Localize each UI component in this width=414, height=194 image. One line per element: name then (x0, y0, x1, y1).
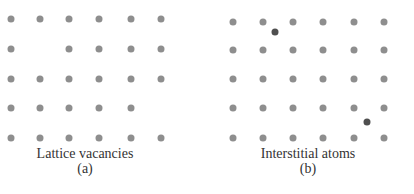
lattice-atom (66, 105, 73, 112)
lattice-atom (96, 76, 103, 83)
lattice-atom (320, 19, 327, 26)
lattice-atom (128, 46, 135, 53)
lattice-atom (290, 76, 297, 83)
lattice-atom (230, 105, 237, 112)
caption-label: (a) (37, 161, 134, 176)
lattice-atom (230, 19, 237, 26)
lattice-atom (351, 47, 358, 54)
lattice-atom (320, 47, 327, 54)
lattice-atom (8, 76, 15, 83)
lattice-atom (96, 105, 103, 112)
lattice-atom (290, 135, 297, 142)
lattice-atom (290, 19, 297, 26)
lattice-atom (37, 16, 44, 23)
lattice-atom (128, 135, 135, 142)
interstitial-atom (272, 29, 279, 36)
caption-title: Lattice vacancies (37, 146, 134, 161)
lattice-atom (230, 76, 237, 83)
caption-interstitial-atoms: Interstitial atoms (b) (261, 146, 355, 176)
lattice-atom (320, 105, 327, 112)
lattice-atom (260, 105, 267, 112)
lattice-atom (351, 19, 358, 26)
lattice-atom (37, 76, 44, 83)
lattice-atom (381, 105, 388, 112)
lattice-atom (66, 46, 73, 53)
lattice-atom (260, 135, 267, 142)
lattice-atom (37, 135, 44, 142)
lattice-atom (351, 76, 358, 83)
lattice-atom (260, 76, 267, 83)
lattice-atom (8, 105, 15, 112)
lattice-atom (66, 135, 73, 142)
lattice-atom (381, 135, 388, 142)
lattice-atom (96, 46, 103, 53)
lattice-atom (66, 16, 73, 23)
lattice-atom (158, 46, 165, 53)
lattice-atom (320, 76, 327, 83)
lattice-atom (66, 76, 73, 83)
caption-label: (b) (261, 161, 355, 176)
lattice-atom (230, 47, 237, 54)
lattice-atom (351, 135, 358, 142)
caption-lattice-vacancies: Lattice vacancies (a) (37, 146, 134, 176)
interstitial-atom (364, 119, 371, 126)
lattice-atom (158, 16, 165, 23)
lattice-atom (351, 105, 358, 112)
lattice-atom (290, 47, 297, 54)
lattice-atom (230, 135, 237, 142)
lattice-atom (128, 76, 135, 83)
lattice-atom (260, 47, 267, 54)
lattice-atom (158, 76, 165, 83)
caption-title: Interstitial atoms (261, 146, 355, 161)
lattice-atom (290, 105, 297, 112)
lattice-atom (128, 105, 135, 112)
lattice-atom (128, 16, 135, 23)
lattice-atom (381, 19, 388, 26)
lattice-atom (96, 135, 103, 142)
lattice-atom (8, 16, 15, 23)
lattice-atom (8, 46, 15, 53)
lattice-atom (37, 105, 44, 112)
lattice-atom (381, 76, 388, 83)
lattice-atom (8, 135, 15, 142)
lattice-atom (381, 47, 388, 54)
lattice-atom (320, 135, 327, 142)
lattice-atom (96, 16, 103, 23)
lattice-atom (158, 135, 165, 142)
lattice-atom (260, 19, 267, 26)
